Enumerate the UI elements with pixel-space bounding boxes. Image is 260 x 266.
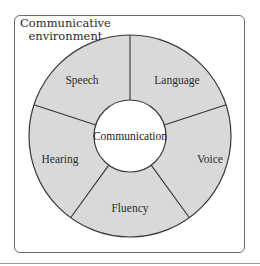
segment-speech: Speech <box>65 74 98 87</box>
segment-fluency: Fluency <box>111 202 148 215</box>
bottom-divider <box>0 263 260 264</box>
segment-voice: Voice <box>197 153 223 165</box>
segment-language: Language <box>154 74 199 87</box>
communication-ring-diagram: Speech Language Voice Fluency Hearing Co… <box>0 0 260 266</box>
segment-hearing: Hearing <box>41 153 78 166</box>
center-communication-label: Communication <box>93 130 167 142</box>
